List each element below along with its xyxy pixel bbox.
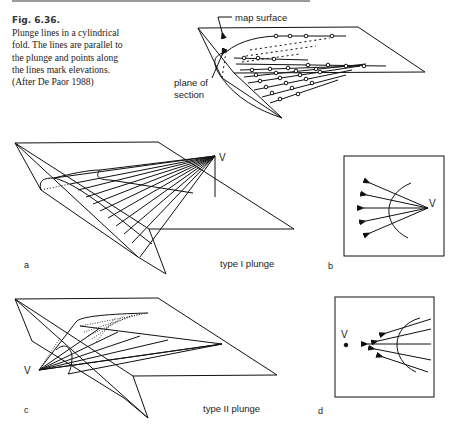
- elevation-point: [286, 66, 290, 70]
- panel-c-plunge-fan: [39, 322, 222, 374]
- plunge-line: [108, 156, 215, 218]
- elevation-point: [290, 86, 294, 90]
- panel-a-figure: [15, 142, 294, 274]
- elevation-point: [362, 64, 366, 68]
- panel-d-arrows: [368, 319, 431, 372]
- top-fold-figure: [198, 17, 425, 118]
- panel-c-figure: [15, 298, 277, 418]
- panel-c-upper-plane: [15, 298, 277, 376]
- elevation-point: [270, 91, 274, 95]
- hidden-line: [222, 52, 226, 78]
- panel-a-hidden-line: [41, 184, 70, 190]
- panel-d-vertex-point: [344, 343, 348, 347]
- elevation-point: [306, 63, 310, 67]
- elevation-point: [274, 71, 278, 75]
- elevation-point: [258, 79, 262, 83]
- elevation-point: [264, 85, 268, 89]
- fold-hinge-curve: [226, 36, 280, 52]
- panel-d-frame: [335, 297, 434, 397]
- plunge-line: [39, 336, 140, 370]
- hidden-line: [246, 46, 316, 56]
- panel-d-vertex-label: V: [341, 329, 348, 340]
- plunge-arrow: [378, 329, 431, 341]
- elevation-point: [268, 67, 272, 71]
- elevation-point: [256, 56, 260, 60]
- panel-a-plunge-fan: [54, 156, 215, 257]
- plunge-arrow: [367, 195, 428, 208]
- elevation-point: [314, 67, 318, 71]
- elevation-point: [278, 76, 282, 80]
- panel-a-limb-edge: [15, 143, 138, 257]
- hidden-line: [92, 316, 124, 339]
- panel-a-vertex-label: V: [219, 152, 226, 163]
- panel-a-front-plane: [15, 143, 166, 274]
- plunge-arrow: [370, 183, 428, 208]
- panel-c-letter: c: [24, 405, 29, 415]
- elevation-point: [294, 69, 298, 73]
- plunge-line: [110, 180, 193, 193]
- panel-c-limb-edge: [15, 299, 148, 418]
- elevation-point: [330, 34, 334, 38]
- elevation-point: [298, 73, 302, 77]
- panel-a-type-label: type I plunge: [220, 258, 274, 269]
- plunge-arrow: [366, 208, 428, 221]
- plunge-arrow: [375, 349, 431, 360]
- panel-c-hinge-curve: [76, 313, 148, 322]
- panel-d-figure: [335, 297, 434, 397]
- panel-a-letter: a: [24, 260, 29, 270]
- panel-b-arrows: [364, 183, 428, 233]
- section-label: section: [174, 89, 204, 100]
- elevation-point: [318, 70, 322, 74]
- elevation-point: [254, 73, 258, 77]
- plunge-line: [70, 156, 215, 184]
- plane-of-label: plane of: [174, 77, 208, 88]
- plunge-lines: [234, 36, 386, 103]
- elevation-point: [304, 34, 308, 38]
- elevation-point: [274, 34, 278, 38]
- plunge-arrow: [383, 357, 428, 372]
- panel-c-type-label: type II plunge: [203, 403, 260, 414]
- map-surface-label: map surface: [235, 12, 287, 23]
- elevation-point: [250, 68, 254, 72]
- elevation-point: [344, 64, 348, 68]
- hidden-line: [88, 315, 132, 336]
- plunge-arrow: [370, 208, 428, 233]
- elevation-point: [288, 34, 292, 38]
- panel-d-letter: d: [318, 406, 323, 416]
- elevation-point: [272, 57, 276, 61]
- map-surface-arrow: [218, 17, 222, 32]
- plunge-line: [80, 326, 222, 344]
- diagram-canvas: map surface plane of section V type I pl…: [0, 0, 456, 429]
- elevation-point: [284, 81, 288, 85]
- map-surface-plane: [198, 27, 425, 73]
- elevation-point: [304, 77, 308, 81]
- panel-b-letter: b: [328, 261, 333, 271]
- panel-c-vertex-label: V: [24, 365, 31, 376]
- panel-b-fold-trace: [389, 183, 411, 238]
- elevation-point: [278, 97, 282, 101]
- panel-a-upper-plane: [15, 142, 294, 229]
- hidden-line: [250, 38, 330, 50]
- elevation-point: [326, 63, 330, 67]
- elevation-point: [242, 56, 246, 60]
- elevation-point: [310, 81, 314, 85]
- panel-b-vertex-label: V: [429, 198, 436, 209]
- elevation-point: [296, 92, 300, 96]
